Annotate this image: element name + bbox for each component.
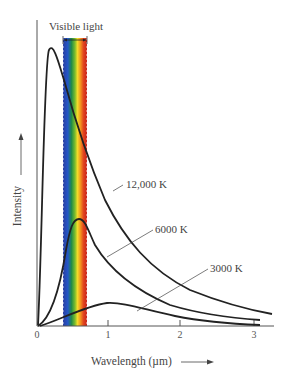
x-axis-label: Wavelength (µm) <box>91 355 172 367</box>
x-tick-0: 0 <box>35 329 40 340</box>
label-6000k: 6000 K <box>155 223 188 235</box>
visible-light-band <box>63 36 87 326</box>
label-12000k: 12,000 K <box>126 178 167 190</box>
x-tick-1: 1 <box>106 329 111 340</box>
label-3000k: 3000 K <box>210 262 243 274</box>
y-axis-label: Intensity <box>11 186 23 226</box>
x-tick-3: 3 <box>252 329 257 340</box>
x-tick-2: 2 <box>178 329 183 340</box>
visible-light-label: Visible light <box>49 20 103 32</box>
